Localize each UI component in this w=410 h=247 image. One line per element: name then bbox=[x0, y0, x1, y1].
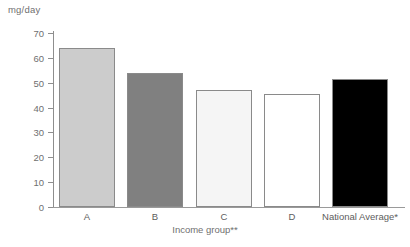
bar bbox=[264, 94, 320, 207]
category-label: D bbox=[289, 211, 296, 222]
category-label: B bbox=[152, 211, 158, 222]
y-axis-tick-label: 60 bbox=[0, 52, 44, 63]
y-axis-tick bbox=[48, 58, 53, 59]
y-axis-tick-label: 70 bbox=[0, 28, 44, 39]
category-label: A bbox=[84, 211, 90, 222]
y-axis-tick bbox=[48, 182, 53, 183]
bar bbox=[127, 73, 183, 207]
bar bbox=[59, 48, 115, 207]
category-label: National Average* bbox=[322, 211, 398, 222]
category-label: C bbox=[221, 211, 228, 222]
y-axis-tick bbox=[48, 33, 53, 34]
y-axis-tick-label: 30 bbox=[0, 127, 44, 138]
y-axis-tick bbox=[48, 83, 53, 84]
y-axis-tick bbox=[48, 132, 53, 133]
bar bbox=[196, 90, 252, 207]
y-axis-tick-label: 20 bbox=[0, 152, 44, 163]
y-axis-tick bbox=[48, 157, 53, 158]
y-axis-tick-label: 40 bbox=[0, 102, 44, 113]
y-axis-unit-label: mg/day bbox=[8, 4, 40, 15]
bar-chart: mg/day 706050403020100 ABCDNational Aver… bbox=[0, 0, 410, 247]
y-axis-tick-label: 0 bbox=[0, 202, 44, 213]
x-axis-title: Income group** bbox=[0, 224, 410, 235]
y-axis-tick-label: 10 bbox=[0, 177, 44, 188]
y-axis-tick bbox=[48, 207, 53, 208]
y-axis-tick-label: 50 bbox=[0, 77, 44, 88]
y-axis-tick bbox=[48, 108, 53, 109]
y-axis-line bbox=[53, 31, 54, 208]
x-axis-line bbox=[53, 207, 405, 208]
bar bbox=[332, 79, 388, 207]
